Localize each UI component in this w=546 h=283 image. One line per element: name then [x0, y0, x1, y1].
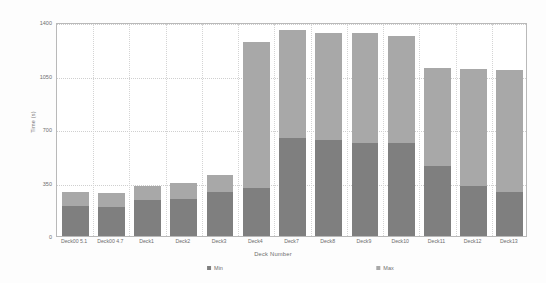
legend-item[interactable]: Min: [207, 265, 223, 271]
x-axis-tick-label: Deck4: [248, 238, 263, 244]
gridline-vertical: [238, 24, 239, 236]
legend-label: Min: [214, 265, 223, 271]
legend-swatch-icon: [207, 266, 211, 270]
gridline-vertical: [419, 24, 420, 236]
plot-area: [56, 23, 527, 237]
bar-min[interactable]: [315, 140, 342, 236]
gridline-vertical: [274, 24, 275, 236]
bar-min[interactable]: [388, 143, 415, 236]
bar-group[interactable]: [460, 24, 487, 236]
legend-item[interactable]: Max: [376, 265, 393, 271]
x-axis-tick-label: Deck8: [320, 238, 335, 244]
x-axis-tick-label: Deck10: [391, 238, 409, 244]
bar-min[interactable]: [279, 138, 306, 236]
y-axis-tick-label: 1050: [8, 74, 52, 80]
x-axis-tick-label: Deck12: [464, 238, 482, 244]
bar-group[interactable]: [98, 24, 125, 236]
gridline-vertical: [93, 24, 94, 236]
gridline-vertical: [166, 24, 167, 236]
x-axis-tick-label: Deck7: [284, 238, 299, 244]
x-axis-tick-label: Deck9: [357, 238, 372, 244]
x-axis-tick-labels: Deck00 5.1Deck00 4.7Deck1Deck2Deck3Deck4…: [56, 238, 527, 250]
bar-group[interactable]: [134, 24, 161, 236]
gridline-vertical: [456, 24, 457, 236]
bar-group[interactable]: [279, 24, 306, 236]
bar-min[interactable]: [62, 206, 89, 236]
bar-min[interactable]: [424, 166, 451, 236]
gridline-vertical: [347, 24, 348, 236]
bar-min[interactable]: [207, 192, 234, 236]
bar-min[interactable]: [496, 192, 523, 236]
y-axis-tick-label: 350: [8, 181, 52, 187]
y-axis-tick-labels: 035070010501400: [4, 23, 52, 237]
bar-group[interactable]: [424, 24, 451, 236]
y-axis-tick-label: 1400: [8, 20, 52, 26]
legend-swatch-icon: [376, 266, 380, 270]
chart-legend: MinMax: [0, 265, 546, 277]
bar-chart: Time (s) 035070010501400 Deck00 5.1Deck0…: [0, 0, 546, 283]
bar-min[interactable]: [460, 186, 487, 236]
legend-label: Max: [383, 265, 393, 271]
bar-group[interactable]: [496, 24, 523, 236]
x-axis-title: Deck Number: [0, 251, 546, 257]
gridline-vertical: [202, 24, 203, 236]
y-axis-tick-label: 700: [8, 127, 52, 133]
bar-group[interactable]: [170, 24, 197, 236]
gridline-vertical: [492, 24, 493, 236]
bar-min[interactable]: [352, 143, 379, 236]
bar-min[interactable]: [170, 199, 197, 236]
bar-group[interactable]: [388, 24, 415, 236]
x-axis-tick-label: Deck11: [428, 238, 445, 244]
bar-group[interactable]: [207, 24, 234, 236]
x-axis-tick-label: Deck3: [212, 238, 227, 244]
bar-group[interactable]: [62, 24, 89, 236]
x-axis-tick-label: Deck00 5.1: [61, 238, 87, 244]
bar-min[interactable]: [134, 200, 161, 236]
gridline-vertical: [311, 24, 312, 236]
bar-group[interactable]: [315, 24, 342, 236]
gridline-vertical: [383, 24, 384, 236]
x-axis-tick-label: Deck13: [500, 238, 518, 244]
y-axis-tick-label: 0: [8, 234, 52, 240]
x-axis-tick-label: Deck00 4.7: [97, 238, 123, 244]
bar-group[interactable]: [243, 24, 270, 236]
x-axis-tick-label: Deck2: [175, 238, 190, 244]
x-axis-tick-label: Deck1: [139, 238, 154, 244]
bar-min[interactable]: [243, 188, 270, 236]
bar-group[interactable]: [352, 24, 379, 236]
bar-min[interactable]: [98, 207, 125, 236]
gridline-vertical: [129, 24, 130, 236]
